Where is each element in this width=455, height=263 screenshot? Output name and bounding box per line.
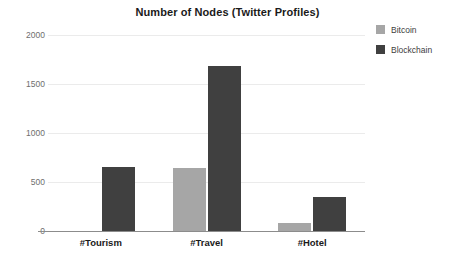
bar-group — [173, 35, 241, 231]
bar-tourism-blockchain — [102, 167, 135, 231]
y-axis: 0500100015002000 — [0, 35, 45, 231]
legend-label: Blockchain — [391, 45, 432, 55]
x-axis-line — [38, 231, 365, 232]
bar-group — [278, 35, 346, 231]
legend-swatch-icon — [376, 25, 385, 34]
y-tick-label: 500 — [3, 177, 45, 187]
y-tick-label: 2000 — [3, 30, 45, 40]
bar-group — [67, 35, 135, 231]
bar-chart: Number of Nodes (Twitter Profiles) 05001… — [0, 0, 455, 263]
legend-swatch-icon — [376, 45, 385, 54]
y-tick-label: 1500 — [3, 79, 45, 89]
chart-legend: BitcoinBlockchain — [376, 24, 455, 64]
legend-label: Bitcoin — [391, 25, 417, 35]
bar-hotel-blockchain — [313, 197, 346, 231]
chart-title: Number of Nodes (Twitter Profiles) — [0, 6, 455, 18]
legend-item-bitcoin[interactable]: Bitcoin — [376, 24, 455, 35]
plot-area — [48, 35, 365, 231]
bar-travel-blockchain — [208, 66, 241, 231]
bar-hotel-bitcoin — [278, 223, 311, 231]
y-tick-label: 1000 — [3, 128, 45, 138]
bar-travel-bitcoin — [173, 168, 206, 231]
x-axis: #Tourism#Travel#Hotel — [48, 234, 365, 254]
x-tick-label: #Travel — [190, 237, 223, 248]
x-tick-label: #Tourism — [80, 237, 122, 248]
legend-item-blockchain[interactable]: Blockchain — [376, 44, 455, 55]
x-tick-label: #Hotel — [298, 237, 327, 248]
